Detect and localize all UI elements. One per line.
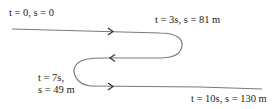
motion-path-diagram: t = 0, s = 0 t = 3s, s = 81 m t = 7s, s … <box>0 0 273 109</box>
marker-text-end: t = 10s, s = 130 m <box>191 93 267 104</box>
path-segment-middle <box>74 58 160 86</box>
marker-text-turn2-line1: t = 7s, <box>38 72 75 84</box>
marker-text-turn1: t = 3s, s = 81 m <box>155 14 220 25</box>
marker-text-start: t = 0, s = 0 <box>9 7 54 18</box>
marker-label-start: t = 0, s = 0 <box>9 7 54 19</box>
marker-label-turn2: t = 7s, s = 49 m <box>38 72 75 96</box>
marker-label-end: t = 10s, s = 130 m <box>191 93 267 105</box>
path-segment-bottom <box>90 86 262 89</box>
marker-label-turn1: t = 3s, s = 81 m <box>155 14 220 26</box>
path-segment-top <box>12 29 182 58</box>
marker-text-turn2-line2: s = 49 m <box>38 84 75 96</box>
